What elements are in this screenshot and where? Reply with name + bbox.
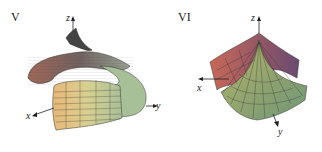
helical-tube-plot bbox=[0, 0, 161, 152]
x-axis-label: x bbox=[26, 110, 30, 121]
panel-v: V bbox=[0, 0, 161, 152]
z-axis-label: z bbox=[251, 12, 255, 23]
x-axis-label: x bbox=[197, 82, 201, 93]
y-axis-label: y bbox=[156, 100, 160, 111]
cone-surface-plot bbox=[161, 0, 322, 152]
panel-vi: VI bbox=[161, 0, 322, 152]
z-axis-label: z bbox=[66, 12, 70, 23]
y-axis-label: y bbox=[278, 126, 282, 137]
